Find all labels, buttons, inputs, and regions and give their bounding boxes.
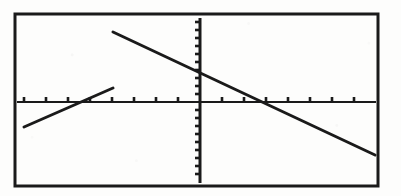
graph-screenshot [0,0,401,196]
plot-canvas [0,0,401,196]
